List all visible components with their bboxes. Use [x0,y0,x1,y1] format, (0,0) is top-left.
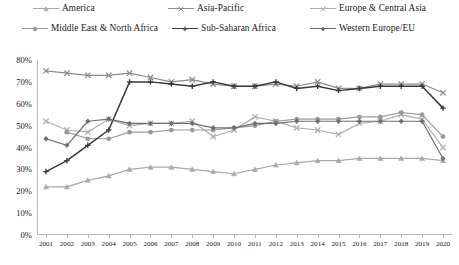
data-point [420,112,425,117]
data-point [106,136,111,141]
data-point [440,145,445,150]
data-point [65,130,70,135]
data-point [169,128,174,133]
x-axis-tick [339,235,340,238]
x-axis-tick [318,235,319,238]
x-axis-tick [192,235,193,238]
x-axis-tick [213,235,214,238]
data-point [190,84,195,89]
data-point [43,169,48,174]
data-point [399,119,404,125]
x-axis-tick [380,235,381,238]
x-axis-tick [297,235,298,238]
x-axis-tick [130,235,131,238]
series-line [46,71,443,93]
x-axis-tick [171,235,172,238]
data-point [43,119,48,124]
data-point [441,134,446,139]
data-point [127,130,132,135]
x-axis-tick [150,235,151,238]
data-point [440,90,445,95]
data-point [148,130,153,135]
x-axis-tick [255,235,256,238]
series-undefined [43,112,445,150]
x-axis-tick [443,235,444,238]
line-chart: America Asia-Pacific Europe & Central As… [0,0,459,265]
x-axis-tick [359,235,360,238]
data-point [399,110,404,115]
x-axis-tick [234,235,235,238]
series-line [46,158,443,186]
x-axis-tick [88,235,89,238]
x-axis-tick [109,235,110,238]
x-axis-tick [46,235,47,238]
series-undefined [43,68,445,95]
series-layer [0,0,459,265]
data-point [232,125,237,131]
x-axis-tick [276,235,277,238]
data-point [190,128,195,133]
x-axis-tick [67,235,68,238]
series-undefined [44,156,446,189]
x-axis-tick [422,235,423,238]
x-axis-tick [401,235,402,238]
data-point [85,136,90,141]
data-point [127,79,132,84]
data-point [44,136,49,142]
